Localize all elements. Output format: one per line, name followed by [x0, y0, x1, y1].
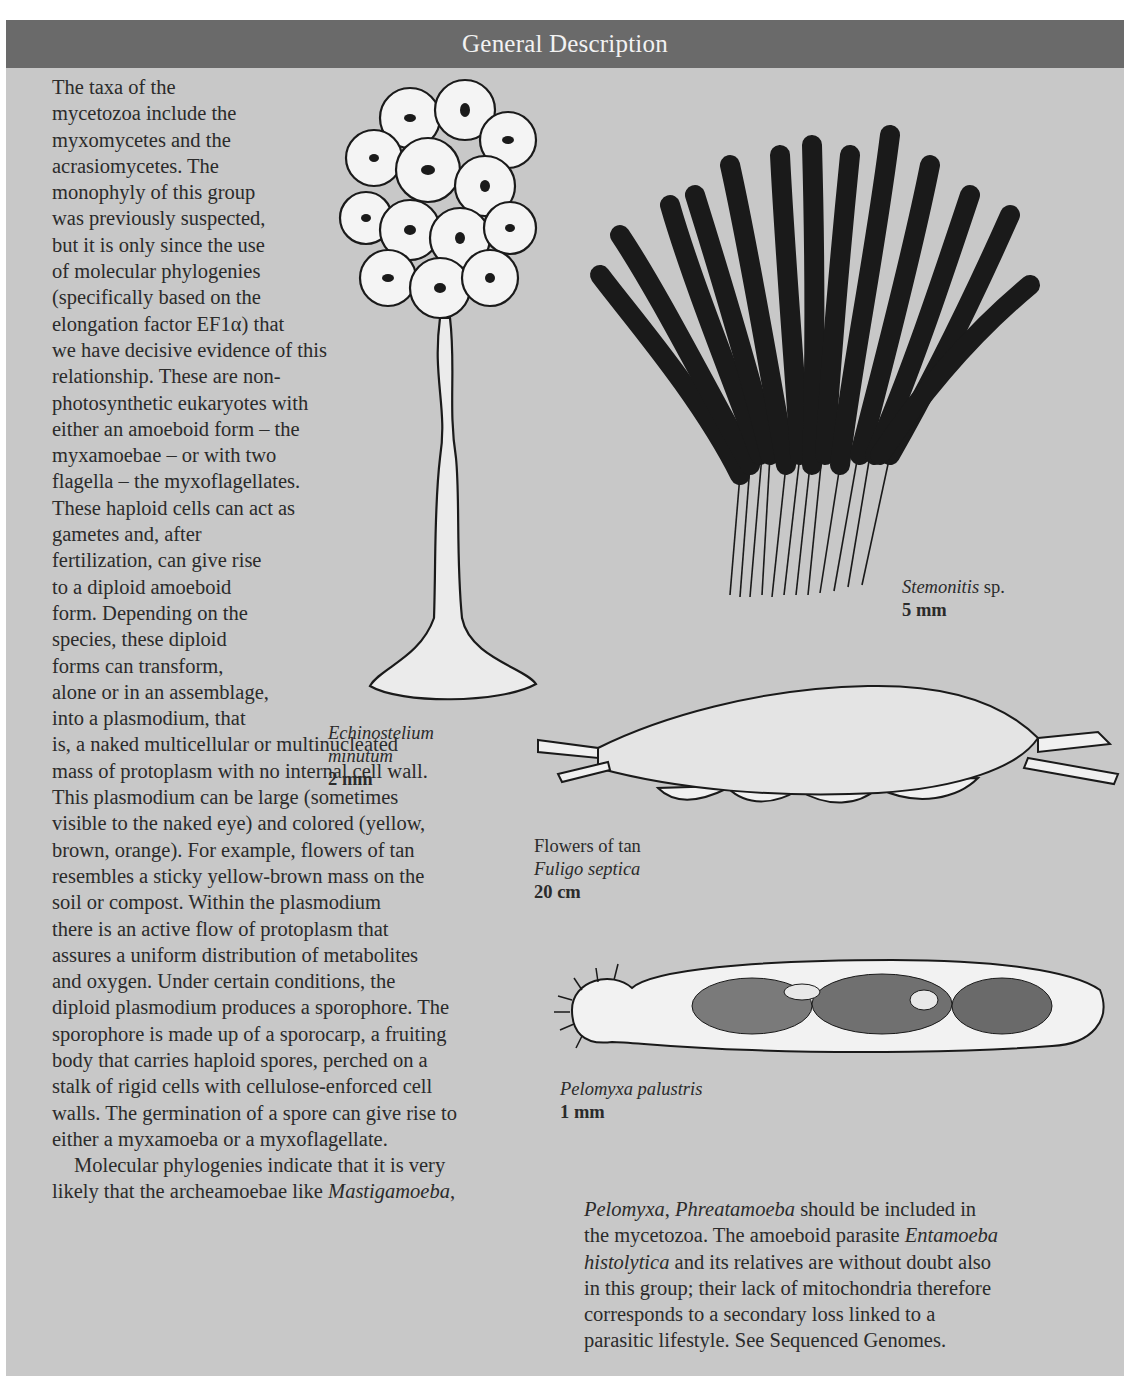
genus-name: Entamoeba — [905, 1224, 998, 1246]
text-line: body that carries haploid spores, perche… — [52, 1047, 457, 1073]
text-line: the mycetozoa. The amoeboid parasite Ent… — [584, 1222, 998, 1248]
text-line: likely that the archeamoebae like Mastig… — [52, 1178, 457, 1204]
caption-stemonitis: Stemonitis sp. 5 mm — [902, 576, 1005, 622]
echinostelium-illustration — [340, 78, 540, 708]
caption-pelomyxa: Pelomyxa palustris 1 mm — [560, 1078, 702, 1124]
species-suffix: sp. — [979, 577, 1005, 597]
section-header: General Description — [6, 20, 1124, 68]
species-name: Echinostelium — [328, 723, 434, 743]
species-name: Pelomyxa palustris — [560, 1079, 702, 1099]
text-line: in this group; their lack of mitochondri… — [584, 1275, 998, 1301]
caption-echinostelium: Echinostelium minutum 2 mm — [328, 722, 434, 791]
common-name: Flowers of tan — [534, 835, 641, 858]
species-name: minutum — [328, 746, 393, 766]
genus-name: Stemonitis — [902, 577, 979, 597]
text-line: walls. The germination of a spore can gi… — [52, 1100, 457, 1126]
fuligo-septica-illustration — [538, 678, 1128, 818]
scale-label: 2 mm — [328, 768, 434, 791]
scale-label: 1 mm — [560, 1101, 702, 1124]
text-line: corresponds to a secondary loss linked t… — [584, 1301, 998, 1327]
text-line: there is an active flow of protoplasm th… — [52, 916, 457, 942]
text-fragment: should be included in — [795, 1198, 976, 1220]
text-fragment: , — [450, 1180, 455, 1202]
text-line: parasitic lifestyle. See Sequenced Genom… — [584, 1327, 998, 1353]
text-line: assures a uniform distribution of metabo… — [52, 942, 457, 968]
species-name: histolytica — [584, 1251, 669, 1273]
section-title: General Description — [462, 30, 668, 58]
stemonitis-illustration — [590, 135, 1060, 605]
text-line: and oxygen. Under certain conditions, th… — [52, 968, 457, 994]
text-line: Molecular phylogenies indicate that it i… — [52, 1152, 457, 1178]
scale-label: 20 cm — [534, 881, 641, 904]
genus-name: Phreatamoeba — [675, 1198, 795, 1220]
text-line: histolytica and its relatives are withou… — [584, 1249, 998, 1275]
scale-label: 5 mm — [902, 599, 1005, 622]
text-fragment: and its relatives are without doubt also — [669, 1251, 991, 1273]
separator: , — [665, 1198, 675, 1220]
pelomyxa-illustration — [552, 950, 1112, 1060]
text-fragment: likely that the archeamoebae like — [52, 1180, 328, 1202]
body-text-right: Pelomyxa, Phreatamoeba should be include… — [584, 1196, 998, 1354]
text-line: sporophore is made up of a sporocarp, a … — [52, 1021, 457, 1047]
text-line: Pelomyxa, Phreatamoeba should be include… — [584, 1196, 998, 1222]
text-line: resembles a sticky yellow-brown mass on … — [52, 863, 457, 889]
text-fragment: the mycetozoa. The amoeboid parasite — [584, 1224, 905, 1246]
species-name: Fuligo septica — [534, 859, 640, 879]
text-line: soil or compost. Within the plasmodium — [52, 889, 457, 915]
text-line: brown, orange). For example, flowers of … — [52, 837, 457, 863]
genus-name: Mastigamoeba — [328, 1180, 450, 1202]
text-line: stalk of rigid cells with cellulose-enfo… — [52, 1073, 457, 1099]
text-line: diploid plasmodium produces a sporophore… — [52, 994, 457, 1020]
genus-name: Pelomyxa — [584, 1198, 665, 1220]
text-line: visible to the naked eye) and colored (y… — [52, 810, 457, 836]
text-line: either a myxamoeba or a myxoflagellate. — [52, 1126, 457, 1152]
caption-fuligo: Flowers of tan Fuligo septica 20 cm — [534, 835, 641, 904]
